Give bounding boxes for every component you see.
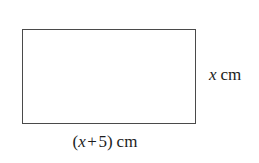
width-close-paren: ) xyxy=(107,132,113,151)
width-operator: + xyxy=(86,132,99,151)
rectangle-shape xyxy=(22,29,196,124)
width-constant: 5 xyxy=(98,132,107,151)
geometry-figure: xcm (x+5)cm xyxy=(0,0,259,163)
width-variable: x xyxy=(78,132,86,151)
height-unit: cm xyxy=(221,65,242,84)
height-dimension-label: xcm xyxy=(209,66,241,83)
width-unit: cm xyxy=(117,132,138,151)
width-dimension-label: (x+5)cm xyxy=(0,133,210,150)
height-variable: x xyxy=(209,65,217,84)
